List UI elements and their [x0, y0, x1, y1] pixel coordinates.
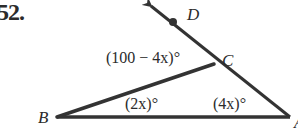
angle-label-b: (2x)° [125, 96, 158, 112]
geometry-figure: 52. D C B A (100 − 4x)° (2x)° (4x)° [0, 0, 298, 130]
point-label-b: B [38, 109, 48, 126]
point-label-a: A [294, 114, 298, 130]
point-label-d: D [187, 6, 199, 23]
angle-label-a: (4x)° [213, 96, 246, 112]
angle-label-exterior-c: (100 − 4x)° [106, 50, 180, 66]
point-d-dot [169, 18, 177, 26]
point-label-c: C [222, 52, 233, 69]
problem-number: 52. [0, 0, 24, 24]
